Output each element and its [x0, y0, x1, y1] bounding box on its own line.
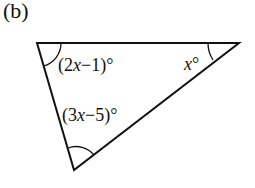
angle-label-top-right: x°	[183, 54, 199, 74]
angle-arc-bottom	[68, 147, 94, 155]
angle-arc-top-right	[208, 43, 213, 60]
triangle-diagram: (2x−1)° x° (3x−5)°	[0, 0, 255, 188]
angle-label-top-left: (2x−1)°	[58, 55, 113, 76]
angle-label-bottom: (3x−5)°	[62, 105, 117, 126]
